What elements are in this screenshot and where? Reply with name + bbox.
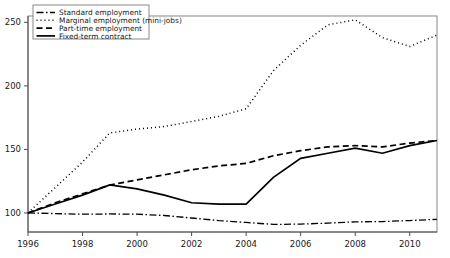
y-axis: 100150200250	[5, 16, 28, 232]
y-tick-label: 100	[5, 208, 21, 218]
x-tick-label: 2008	[344, 239, 366, 249]
legend-label-4: Fixed-term contract	[59, 32, 132, 41]
x-axis: 19961998200020022004200620082010	[17, 232, 437, 249]
x-tick-label: 1998	[72, 239, 94, 249]
y-tick-label: 250	[5, 17, 21, 27]
x-tick-label: 2004	[235, 239, 257, 249]
chart-legend: Standard employmentMarginal employment (…	[33, 5, 182, 41]
series-line-1	[28, 213, 437, 224]
series-lines	[28, 20, 437, 225]
series-line-4	[28, 141, 437, 213]
y-tick-label: 150	[5, 144, 21, 154]
x-tick-label: 1996	[17, 239, 39, 249]
series-line-2	[28, 20, 437, 213]
x-tick-label: 2002	[181, 239, 203, 249]
x-tick-label: 2010	[399, 239, 421, 249]
x-tick-label: 2006	[290, 239, 312, 249]
chart-figure: 100150200250 199619982000200220042006200…	[0, 0, 450, 258]
plot-border	[28, 16, 437, 232]
plot-frame	[28, 16, 437, 232]
y-tick-label: 200	[5, 81, 21, 91]
x-tick-label: 2000	[126, 239, 148, 249]
line-chart: 100150200250 199619982000200220042006200…	[0, 0, 450, 258]
